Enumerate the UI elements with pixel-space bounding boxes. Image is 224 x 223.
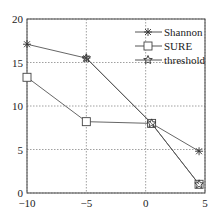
x-tick-label: −5 (80, 197, 92, 209)
y-tick-label: 10 (12, 100, 24, 112)
x-tick-label: 0 (143, 197, 149, 209)
legend-label-shannon: Shannon (164, 26, 203, 38)
legend-label-sure: SURE (164, 40, 192, 52)
series-sure (23, 73, 203, 188)
legend-label-threshold: threshold (164, 54, 205, 66)
y-tick-label: 15 (12, 57, 24, 69)
y-tick-label: 0 (18, 187, 24, 199)
square-icon (144, 42, 152, 50)
y-tick-label: 20 (12, 13, 24, 25)
legend: Shannon SURE threshold (135, 26, 205, 66)
x-tick-label: 5 (202, 197, 208, 209)
series-threshold (82, 54, 203, 188)
line-chart: −10−50505101520 Shannon SURE threshold (0, 0, 224, 223)
y-tick-label: 5 (18, 144, 24, 156)
asterisk-icon (144, 28, 152, 36)
